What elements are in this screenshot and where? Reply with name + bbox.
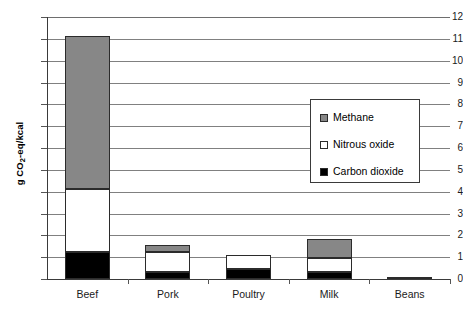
y-axis-tick-label: 0 [439, 274, 463, 284]
legend-swatch-carbon-icon [320, 168, 328, 176]
x-axis-tick-mark [369, 279, 370, 284]
bar-segment-carbon [226, 269, 271, 279]
y-axis-title-prefix: g CO [14, 162, 25, 185]
bar-pork [145, 17, 190, 279]
x-axis-tick-mark [289, 279, 290, 284]
x-axis-label-beans: Beans [365, 288, 455, 300]
y-axis-tick-label: 7 [439, 121, 463, 131]
bar-segment-nitrous [65, 189, 110, 251]
legend-swatch-methane-icon [320, 114, 328, 122]
bar-segment-carbon [307, 272, 352, 279]
bar-poultry [226, 17, 271, 279]
legend-label: Methane [333, 112, 374, 123]
y-axis-title: g CO2-eq/kcal [14, 89, 25, 219]
y-axis-tick-label: 6 [439, 143, 463, 153]
bar-segment-carbon [145, 272, 190, 279]
y-axis-tick-label: 4 [439, 187, 463, 197]
bar-segment-methane [65, 36, 110, 190]
legend: MethaneNitrous oxideCarbon dioxide [310, 99, 420, 183]
x-axis-label-milk: Milk [284, 288, 374, 300]
bar-segment-carbon [65, 252, 110, 279]
x-axis-tick-mark [208, 279, 209, 284]
legend-item-nitrous: Nitrous oxide [320, 139, 394, 150]
y-axis-tick-label: 5 [439, 165, 463, 175]
bar-segment-methane [307, 239, 352, 259]
legend-item-carbon: Carbon dioxide [320, 166, 404, 177]
y-axis-tick-label: 2 [439, 230, 463, 240]
x-axis-tick-mark [450, 279, 451, 284]
x-axis-label-pork: Pork [123, 288, 213, 300]
y-axis-tick-label: 1 [439, 252, 463, 262]
chart-container: g CO2-eq/kcal 0123456789101112 BeefPorkP… [0, 0, 463, 327]
y-axis-tick-label: 3 [439, 209, 463, 219]
y-axis-tick-label: 12 [439, 12, 463, 22]
x-axis-tick-mark [128, 279, 129, 284]
y-axis-tick-mark [41, 279, 47, 280]
bar-segment-methane [145, 245, 190, 252]
y-axis-title-subscript: 2 [18, 158, 27, 162]
y-axis-tick-label: 11 [439, 34, 463, 44]
y-axis-tick-label: 9 [439, 78, 463, 88]
bar-segment-nitrous [145, 252, 190, 273]
legend-item-methane: Methane [320, 112, 374, 123]
y-axis-title-suffix: -eq/kcal [14, 122, 25, 158]
legend-swatch-nitrous-icon [320, 141, 328, 149]
bar-segment-nitrous [307, 258, 352, 272]
bar-beef [65, 17, 110, 279]
legend-label: Nitrous oxide [333, 139, 394, 150]
y-axis-line [47, 17, 48, 279]
y-axis-tick-label: 8 [439, 99, 463, 109]
bar-segment-methane [387, 277, 432, 279]
legend-label: Carbon dioxide [333, 166, 404, 177]
x-axis-label-poultry: Poultry [204, 288, 294, 300]
bar-segment-nitrous [226, 255, 271, 269]
x-axis-label-beef: Beef [42, 288, 132, 300]
y-axis-tick-label: 10 [439, 56, 463, 66]
